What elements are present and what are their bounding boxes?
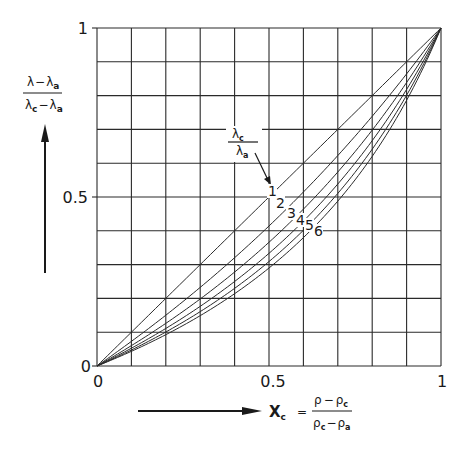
curve-label-3: 3 (287, 205, 296, 221)
x-axis-arrow (138, 407, 262, 415)
curve-label-5: 5 (305, 217, 314, 233)
x-tick-0: 0 (93, 372, 103, 391)
y-tick-0: 0 (81, 357, 91, 376)
svg-text:Xc: Xc (269, 403, 286, 422)
svg-text:λ−λa: λ−λa (27, 75, 59, 91)
curve-label-4: 4 (296, 212, 305, 228)
y-axis-label: λ−λa λc−λa (23, 75, 63, 114)
y-tick-0.5: 0.5 (63, 188, 88, 207)
y-tick-1: 1 (78, 19, 88, 38)
x-axis-label: Xc = ρ−ρc ρc−ρa (269, 393, 352, 432)
x-tick-1: 1 (437, 372, 447, 391)
svg-text:λc−λa: λc−λa (25, 98, 63, 114)
grid (92, 28, 441, 366)
y-axis-arrow (41, 124, 49, 273)
svg-text:=: = (297, 405, 307, 419)
curve-label-2: 2 (276, 195, 285, 211)
x-tick-0.5: 0.5 (260, 372, 285, 391)
svg-text:ρ−ρc: ρ−ρc (314, 393, 348, 409)
curve-label-6: 6 (314, 223, 323, 239)
chart: 1 0.5 0 0 0.5 1 λ−λa λc−λa Xc = ρ−ρc ρ (0, 0, 458, 457)
svg-text:ρc−ρa: ρc−ρa (313, 416, 350, 432)
